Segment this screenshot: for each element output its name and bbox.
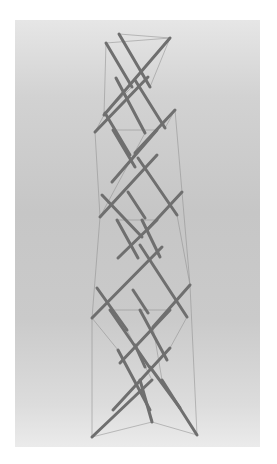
strut: [105, 113, 130, 155]
cable: [170, 317, 187, 348]
cable: [106, 38, 170, 43]
cable: [175, 110, 182, 192]
cable: [182, 192, 190, 285]
tensegrity-sculpture: [15, 20, 260, 447]
cable: [150, 38, 170, 87]
sculpture-photo: [15, 20, 260, 447]
cable: [177, 215, 190, 285]
strut: [140, 245, 187, 317]
cable: [190, 285, 197, 435]
cable: [95, 132, 100, 217]
strut: [92, 247, 162, 318]
strut: [128, 192, 145, 218]
cable: [92, 217, 100, 318]
cable: [92, 318, 118, 350]
strut: [117, 220, 138, 258]
strut: [104, 38, 170, 115]
strut: [138, 158, 177, 215]
compression-struts: [92, 34, 197, 437]
cable: [119, 34, 170, 38]
cable: [104, 43, 106, 115]
